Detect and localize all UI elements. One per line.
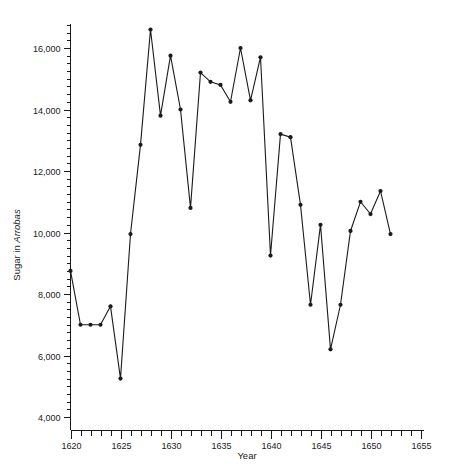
data-point-marker: [78, 323, 82, 327]
data-point-marker: [358, 200, 362, 204]
y-axis-tick-labels: 4,0006,0008,00010,00012,00014,00016,000: [33, 44, 61, 423]
x-axis-tick-label: 1635: [211, 441, 231, 451]
data-point-marker: [268, 253, 272, 257]
data-point-marker: [288, 135, 292, 139]
data-point-marker: [148, 27, 152, 31]
data-point-marker: [158, 114, 162, 118]
data-point-marker: [328, 347, 332, 351]
data-point-marker: [108, 304, 112, 308]
y-axis-major-ticks: [64, 49, 71, 418]
data-point-marker: [388, 232, 392, 236]
x-axis-tick-label: 1630: [161, 441, 181, 451]
data-point-marker: [228, 100, 232, 104]
data-point-marker: [178, 107, 182, 111]
y-axis-tick-label: 12,000: [33, 167, 61, 177]
data-point-marker: [68, 269, 72, 273]
x-axis-tick-label: 1625: [111, 441, 131, 451]
data-point-marker: [128, 232, 132, 236]
y-axis-tick-label: 16,000: [33, 44, 61, 54]
data-point-marker: [318, 223, 322, 227]
data-point-marker: [348, 229, 352, 233]
data-point-marker: [218, 83, 222, 87]
chart-plot-area: 4,0006,0008,00010,00012,00014,00016,000 …: [0, 0, 453, 466]
data-point-marker: [368, 212, 372, 216]
x-axis-tick-label: 1655: [411, 441, 431, 451]
data-point-marker: [378, 189, 382, 193]
x-axis-minor-ticks: [82, 431, 412, 436]
x-axis-tick-label: 1645: [311, 441, 331, 451]
data-point-marker: [248, 98, 252, 102]
x-axis-title: Year: [237, 450, 256, 461]
data-point-marker: [118, 376, 122, 380]
y-axis-tick-label: 4,000: [38, 413, 61, 423]
sugar-series-markers: [68, 27, 392, 380]
x-axis-tick-label: 1650: [361, 441, 381, 451]
y-axis-tick-label: 14,000: [33, 106, 61, 116]
data-point-marker: [88, 323, 92, 327]
data-point-marker: [138, 143, 142, 147]
data-point-marker: [278, 132, 282, 136]
y-axis-minor-ticks: [67, 26, 71, 410]
data-point-marker: [208, 80, 212, 84]
data-point-marker: [338, 303, 342, 307]
x-axis-tick-label: 1640: [261, 441, 281, 451]
data-point-marker: [188, 206, 192, 210]
x-axis-major-ticks: [72, 431, 422, 439]
sugar-series-line: [71, 30, 391, 379]
data-point-marker: [258, 55, 262, 59]
data-point-marker: [98, 323, 102, 327]
data-point-marker: [168, 54, 172, 58]
y-axis-tick-label: 10,000: [33, 229, 61, 239]
x-axis-tick-label: 1620: [61, 441, 81, 451]
data-point-marker: [298, 203, 302, 207]
y-axis-tick-label: 6,000: [38, 352, 61, 362]
data-point-marker: [198, 71, 202, 75]
y-axis-title: Sugar in Arrobas: [11, 209, 22, 281]
data-point-marker: [238, 46, 242, 50]
data-point-marker: [308, 303, 312, 307]
sugar-production-line-chart: 4,0006,0008,00010,00012,00014,00016,000 …: [0, 0, 453, 466]
y-axis-tick-label: 8,000: [38, 290, 61, 300]
